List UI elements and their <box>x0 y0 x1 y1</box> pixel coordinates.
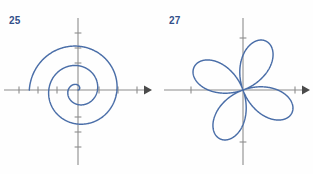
archimedean-spiral-curve <box>29 46 117 124</box>
spiral-x-axis-arrowhead <box>144 86 152 95</box>
figure-panel-spiral: 25 <box>0 0 157 174</box>
rose-x-axis-arrowhead <box>302 86 310 95</box>
figure-sheet: 25 <box>0 0 313 174</box>
figure-panel-rose: 27 <box>156 0 313 174</box>
four-petal-rose-curve <box>193 40 293 140</box>
spiral-plot <box>0 0 157 174</box>
rose-plot <box>156 0 313 174</box>
